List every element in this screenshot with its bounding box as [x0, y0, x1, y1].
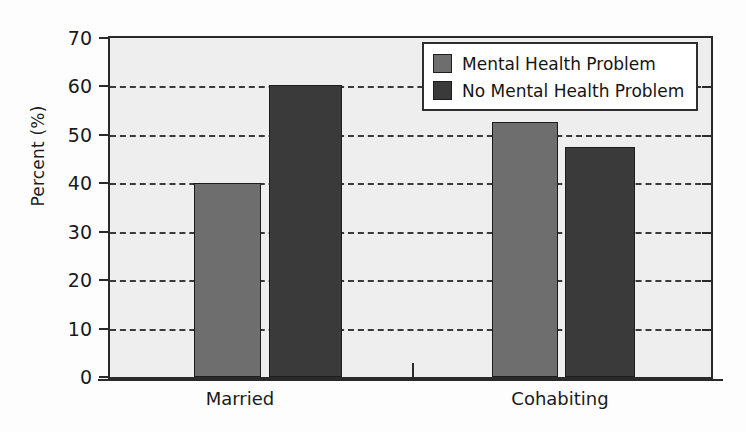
- y-axis-title: Percent (%): [28, 76, 48, 236]
- y-axis-tick-inner: [702, 329, 711, 331]
- y-axis-tick-label: 40: [68, 172, 92, 194]
- bar: [269, 85, 342, 377]
- bar: [492, 122, 558, 377]
- y-axis-tick-label: 60: [68, 75, 92, 97]
- x-axis-label: Cohabiting: [511, 388, 608, 409]
- bar-chart: Percent (%) 010203040506070 Mental Healt…: [0, 0, 746, 432]
- legend-swatch: [433, 54, 452, 73]
- legend-label: Mental Health Problem: [462, 54, 656, 74]
- y-axis-tick-label: 30: [68, 221, 92, 243]
- y-axis-tick-inner: [702, 135, 711, 137]
- y-axis-tick-label: 0: [80, 366, 92, 388]
- y-axis-tick-inner: [702, 183, 711, 185]
- bar: [565, 147, 635, 377]
- y-axis-tick: 10: [99, 328, 110, 330]
- y-axis-tick-inner: [702, 280, 711, 282]
- y-axis-tick: 0: [99, 376, 110, 378]
- x-axis-group-separator-tick: [412, 363, 414, 377]
- y-axis-tick-inner: [702, 232, 711, 234]
- y-axis-tick-label: 50: [68, 124, 92, 146]
- legend-label: No Mental Health Problem: [462, 81, 684, 101]
- y-axis-tick: 60: [99, 85, 110, 87]
- y-axis-tick: 20: [99, 279, 110, 281]
- y-axis-tick: 40: [99, 182, 110, 184]
- y-axis-tick-inner: [702, 86, 711, 88]
- y-axis-tick: 30: [99, 231, 110, 233]
- x-axis-label: Married: [206, 388, 275, 409]
- y-axis-tick-label: 10: [68, 318, 92, 340]
- x-axis-line: [98, 379, 723, 381]
- gridline: [110, 135, 711, 137]
- legend-entry: Mental Health Problem: [433, 50, 687, 77]
- bar: [194, 183, 261, 377]
- legend-entry: No Mental Health Problem: [433, 77, 687, 104]
- y-axis-tick: 50: [99, 134, 110, 136]
- y-axis-tick: 70: [99, 37, 110, 39]
- y-axis-tick-label: 20: [68, 269, 92, 291]
- y-axis-tick-label: 70: [68, 27, 92, 49]
- legend-swatch: [433, 81, 452, 100]
- chart-legend: Mental Health ProblemNo Mental Health Pr…: [422, 42, 698, 111]
